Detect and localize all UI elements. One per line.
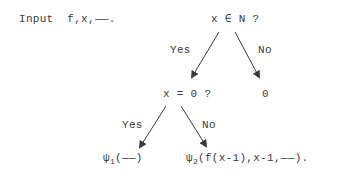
arrow-root-no	[235, 32, 259, 77]
root-yes-label: Yes	[170, 44, 191, 56]
psi1-args: (——)	[115, 152, 143, 164]
zero-no-label: No	[202, 119, 216, 131]
decision-tree-arrows	[0, 0, 338, 173]
zero-yes-label: Yes	[122, 119, 143, 131]
psi2-args: (f(x-1),x-1,——).	[198, 152, 308, 164]
input-line: Input f,x,——.	[19, 13, 116, 25]
psi-subscript: 2	[193, 157, 198, 166]
leaf-psi1: ψ1(——)	[103, 152, 143, 165]
no-result: 0	[262, 88, 269, 100]
psi-subscript: 1	[110, 157, 115, 166]
leaf-psi2: ψ2(f(x-1),x-1,——).	[186, 152, 308, 165]
arrow-root-yes	[192, 32, 219, 77]
zero-question: x = 0 ?	[163, 88, 211, 100]
psi-symbol: ψ	[186, 152, 193, 164]
root-no-label: No	[258, 44, 272, 56]
root-question: x ∈ N ?	[211, 13, 259, 25]
arrow-zero-yes	[140, 106, 166, 147]
psi-symbol: ψ	[103, 152, 110, 164]
